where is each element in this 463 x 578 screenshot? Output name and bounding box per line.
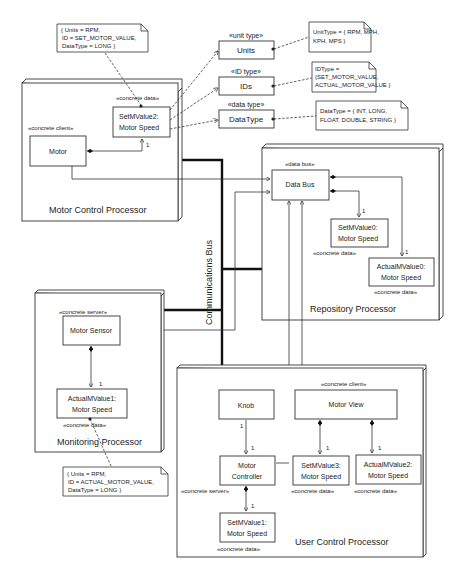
svg-text:KPH, MPS }: KPH, MPS } bbox=[313, 38, 345, 44]
class-line2: Controller bbox=[232, 473, 263, 480]
class-line2: Motor Speed bbox=[368, 472, 408, 480]
stereotype: «unit type» bbox=[229, 32, 263, 40]
class-name: Data Bus bbox=[286, 181, 315, 188]
note-anchor bbox=[274, 37, 309, 49]
bus-label: Communications Bus bbox=[204, 239, 214, 325]
stereotype: «concrete data» bbox=[354, 488, 398, 494]
note-anchor bbox=[274, 78, 312, 86]
svg-text:{ Units = RPM,: { Units = RPM, bbox=[67, 471, 107, 477]
note-id-type: IDType = {SET_MOTOR_VALUE, ACTUAL_MOTOR_… bbox=[312, 62, 390, 92]
class-name: Motor View bbox=[329, 401, 365, 408]
node-label: User Control Processor bbox=[295, 537, 389, 547]
class-name: Knob bbox=[238, 402, 254, 409]
class-line1: SetMValue0: bbox=[338, 224, 378, 231]
svg-text:DataType = LONG }: DataType = LONG } bbox=[68, 487, 121, 493]
class-name: Motor Sensor bbox=[70, 327, 113, 334]
node-label: Repository Processor bbox=[310, 304, 396, 314]
class-ids[interactable]: «ID type» IDs bbox=[219, 68, 274, 95]
class-datatype[interactable]: «data type» DataType bbox=[219, 101, 274, 128]
stereotype: «concrete client» bbox=[28, 125, 74, 131]
class-line1: Motor bbox=[238, 462, 257, 469]
note-anchor bbox=[274, 116, 316, 119]
stereotype: «concrete data» bbox=[291, 488, 335, 494]
stereotype: «ID type» bbox=[231, 68, 261, 76]
svg-text:{SET_MOTOR_VALUE,: {SET_MOTOR_VALUE, bbox=[315, 74, 379, 80]
class-line2: Motor Speed bbox=[72, 406, 112, 414]
stereotype: «concrete data» bbox=[374, 289, 418, 295]
class-line1: SetMValue1: bbox=[227, 519, 267, 526]
class-line2: Motor Speed bbox=[301, 473, 341, 481]
svg-text:UnitType = { RPM, MPH,: UnitType = { RPM, MPH, bbox=[313, 29, 379, 35]
stereotype: «concrete server» bbox=[181, 488, 230, 494]
note-actual-motor-value: { Units = RPM, ID = ACTUAL_MOTOR_VALUE, … bbox=[63, 467, 168, 496]
stereotype: «data bus» bbox=[285, 161, 315, 167]
class-name: Motor bbox=[49, 148, 68, 155]
note-unit-type: UnitType = { RPM, MPH, KPH, MPS } bbox=[309, 22, 379, 52]
class-line1: ActualMValue1: bbox=[68, 395, 117, 402]
stereotype: «concrete server» bbox=[59, 309, 108, 315]
class-line2: Motor Speed bbox=[119, 124, 159, 132]
svg-text:ID = SET_MOTOR_VALUE,: ID = SET_MOTOR_VALUE, bbox=[62, 35, 137, 41]
class-line1: ActualMValue0: bbox=[377, 263, 426, 270]
stereotype: «concrete data» bbox=[313, 250, 357, 256]
node-label: Motor Control Processor bbox=[49, 205, 147, 215]
class-name: Units bbox=[237, 46, 255, 55]
class-line2: Motor Speed bbox=[338, 235, 378, 243]
svg-text:IDType =: IDType = bbox=[315, 66, 340, 72]
stereotype: «concrete data» bbox=[63, 422, 107, 428]
svg-text:ACTUAL_MOTOR_VALUE }: ACTUAL_MOTOR_VALUE } bbox=[315, 82, 390, 88]
class-line1: SetMValue2: bbox=[119, 113, 159, 120]
note-data-type: DataType = { INT, LONG, FLOAT, DOUBLE, S… bbox=[316, 101, 408, 130]
deployment-diagram: Communications Bus Motor Control Process… bbox=[0, 0, 463, 578]
class-line1: SetMValue3: bbox=[301, 462, 341, 469]
class-line1: ActualMValue2: bbox=[364, 461, 413, 468]
class-line2: Motor Speed bbox=[381, 274, 421, 282]
stereotype: «concrete client» bbox=[321, 381, 367, 387]
svg-text:FLOAT, DOUBLE, STRING }: FLOAT, DOUBLE, STRING } bbox=[320, 117, 396, 123]
svg-text:{ Units = RPM,: { Units = RPM, bbox=[61, 27, 101, 33]
note-set-motor-value: { Units = RPM, ID = SET_MOTOR_VALUE, Dat… bbox=[57, 24, 148, 52]
class-name: DataType bbox=[229, 115, 264, 124]
class-knob[interactable]: Knob bbox=[219, 390, 274, 419]
class-name: IDs bbox=[240, 82, 252, 91]
svg-text:ID = ACTUAL_MOTOR_VALUE,: ID = ACTUAL_MOTOR_VALUE, bbox=[68, 479, 154, 485]
stereotype: «data type» bbox=[228, 101, 265, 109]
stereotype: «concrete data» bbox=[217, 546, 261, 552]
node-label: Monitoring Processor bbox=[57, 437, 142, 447]
class-units[interactable]: «unit type» Units bbox=[219, 32, 274, 59]
class-line2: Motor Speed bbox=[227, 530, 267, 538]
svg-text:DataType = LONG }: DataType = LONG } bbox=[62, 43, 115, 49]
svg-text:DataType = { INT, LONG,: DataType = { INT, LONG, bbox=[320, 108, 388, 114]
